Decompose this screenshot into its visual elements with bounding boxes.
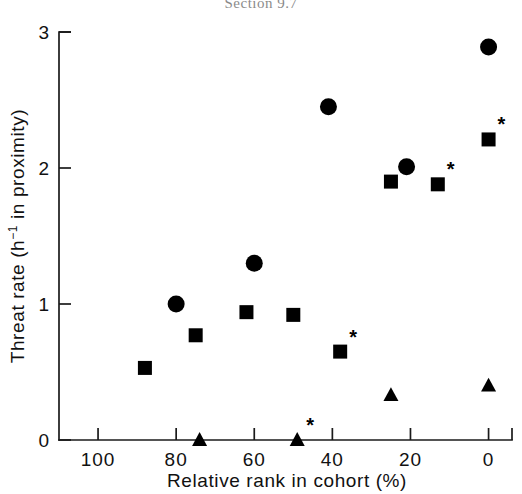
data-point-asterisk: * (306, 414, 314, 436)
data-point-triangle (192, 432, 207, 446)
data-point-asterisk: * (498, 113, 506, 135)
y-axis-title: Threat rate (h−1 in proximity) (6, 109, 28, 364)
data-point-square (138, 361, 152, 375)
data-marker-group: **** (138, 38, 506, 445)
x-tick-label-40: 40 (321, 449, 344, 470)
x-tick-label-20: 20 (399, 449, 422, 470)
data-point-triangle (383, 387, 398, 401)
data-point-square (189, 328, 203, 342)
data-point-triangle (290, 432, 305, 446)
y-tick-group: 0123 (38, 22, 71, 451)
y-tick-label-3: 3 (38, 22, 50, 43)
data-point-circle (168, 296, 185, 313)
data-point-circle (398, 158, 415, 175)
data-point-square (431, 177, 445, 191)
x-tick-label-100: 100 (81, 449, 116, 470)
x-tick-label-80: 80 (165, 449, 188, 470)
data-point-square (482, 132, 496, 146)
scatter-plot: 0123 100806040200 **** Relative rank in … (0, 0, 522, 494)
data-point-square (239, 305, 253, 319)
data-point-circle (480, 38, 497, 55)
x-axis-title: Relative rank in cohort (%) (167, 470, 407, 491)
axis-titles: Relative rank in cohort (%) Threat rate … (6, 109, 407, 491)
data-point-circle (320, 98, 337, 115)
x-tick-label-0: 0 (483, 449, 495, 470)
y-tick-label-2: 2 (38, 158, 50, 179)
x-tick-group: 100806040200 (81, 428, 495, 470)
data-point-asterisk: * (447, 158, 455, 180)
data-point-circle (246, 255, 263, 272)
figure-container: Section 9.7 0123 100806040200 **** Relat… (0, 0, 522, 494)
data-point-square (333, 345, 347, 359)
axes (59, 32, 512, 440)
y-tick-label-1: 1 (38, 294, 50, 315)
y-tick-label-0: 0 (38, 430, 50, 451)
data-point-triangle (481, 378, 496, 392)
data-point-square (384, 175, 398, 189)
data-point-asterisk: * (349, 326, 357, 348)
x-tick-label-60: 60 (243, 449, 266, 470)
data-point-square (286, 308, 300, 322)
